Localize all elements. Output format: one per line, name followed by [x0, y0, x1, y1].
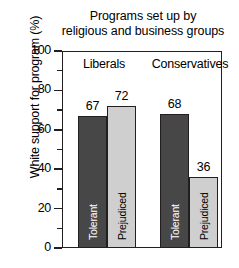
y-axis-tick-group: 100806040200 — [0, 0, 51, 268]
bar-inner-label-prejudiced-3: Prejudiced — [198, 192, 210, 240]
bar-inner-label-prejudiced-1: Prejudiced — [116, 192, 128, 240]
y-tick-major-80 — [54, 90, 62, 92]
y-tick-major-0 — [54, 247, 62, 249]
y-tick-label-0: 0 — [3, 240, 51, 254]
y-tick-major-100 — [54, 50, 62, 52]
bar-chart-figure: Programs set up by religious and busines… — [0, 0, 239, 268]
bar-value-conservatives-prejudiced: 36 — [185, 160, 222, 174]
y-tick-minor-50 — [57, 149, 62, 151]
y-tick-minor-30 — [57, 188, 62, 190]
y-tick-minor-10 — [57, 228, 62, 230]
y-tick-minor-70 — [57, 109, 62, 111]
chart-title: Programs set up by religious and busines… — [50, 9, 236, 38]
bar-inner-label-tolerant-2: Tolerant — [169, 204, 181, 240]
y-tick-major-40 — [54, 168, 62, 170]
y-tick-minor-90 — [57, 70, 62, 72]
y-tick-label-20: 20 — [3, 201, 51, 215]
group-label-conservatives: Conservatives — [146, 57, 234, 71]
bar-liberals-tolerant: Tolerant — [78, 116, 107, 248]
y-tick-label-80: 80 — [3, 82, 51, 96]
y-tick-major-20 — [54, 208, 62, 210]
bar-liberals-prejudiced: Prejudiced — [107, 106, 136, 248]
group-label-liberals: Liberals — [66, 57, 142, 71]
bar-value-conservatives-tolerant: 68 — [156, 97, 193, 111]
y-tick-label-40: 40 — [3, 161, 51, 175]
bar-inner-label-tolerant-0: Tolerant — [87, 204, 99, 240]
bar-value-liberals-prejudiced: 72 — [103, 89, 140, 103]
y-tick-label-60: 60 — [3, 122, 51, 136]
y-tick-major-60 — [54, 129, 62, 131]
bar-conservatives-prejudiced: Prejudiced — [189, 177, 218, 248]
bar-conservatives-tolerant: Tolerant — [160, 114, 189, 248]
y-tick-label-100: 100 — [3, 43, 51, 57]
